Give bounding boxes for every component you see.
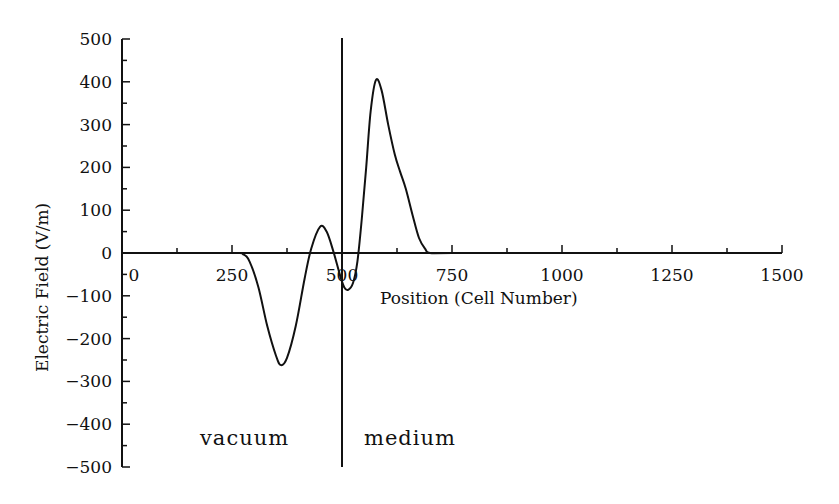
y-tick-label: −500	[65, 457, 112, 477]
medium-label: medium	[364, 426, 456, 450]
x-tick-label: 1500	[760, 265, 803, 285]
y-tick-label: 0	[101, 243, 112, 263]
y-tick-label: 400	[80, 72, 112, 92]
vacuum-label: vacuum	[199, 426, 289, 450]
x-axis: 0250500750100012501500	[122, 245, 804, 285]
chart-canvas: 5004003002001000−100−200−300−400−500 025…	[0, 0, 839, 504]
x-tick-label: 1000	[540, 265, 583, 285]
y-axis-title: Electric Field (V/m)	[32, 203, 52, 372]
y-tick-label: −400	[65, 414, 112, 434]
x-tick-label: 250	[216, 265, 248, 285]
x-tick-label: 0	[129, 265, 140, 285]
y-tick-label: −100	[65, 286, 112, 306]
y-tick-label: 100	[80, 200, 112, 220]
x-tick-label: 1250	[650, 265, 693, 285]
y-tick-label: −300	[65, 371, 112, 391]
electric-field-curve	[122, 79, 782, 365]
x-axis-title: Position (Cell Number)	[380, 288, 578, 308]
y-tick-label: 200	[80, 157, 112, 177]
y-axis: 5004003002001000−100−200−300−400−500	[65, 29, 130, 477]
y-tick-label: 500	[80, 29, 112, 49]
x-tick-label: 750	[436, 265, 468, 285]
y-tick-label: −200	[65, 329, 112, 349]
y-tick-label: 300	[80, 115, 112, 135]
